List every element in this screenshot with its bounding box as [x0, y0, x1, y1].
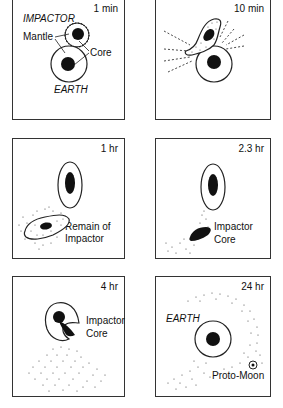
- impact-4hr-drawing: [13, 277, 126, 398]
- impact-10min-drawing: [156, 0, 272, 121]
- panel-2-3-hr: 2.3 hr Impactor Core: [155, 138, 271, 259]
- impact-1min-drawing: [13, 0, 126, 121]
- panel-1-min: 1 min IMPACTOR Mantle Core EARTH: [12, 0, 125, 120]
- impact-2-3hr-drawing: [156, 139, 272, 260]
- impact-1hr-drawing: [13, 139, 126, 260]
- panel-4-hr: 4 hr Impactor Core: [12, 276, 125, 397]
- panel-1-hr: 1 hr Remain of Impactor: [12, 138, 125, 259]
- impact-24hr-drawing: [156, 277, 272, 398]
- panel-24-hr: 24 hr EARTH Proto-Moon: [155, 276, 271, 397]
- panel-10-min: 10 min: [155, 0, 271, 120]
